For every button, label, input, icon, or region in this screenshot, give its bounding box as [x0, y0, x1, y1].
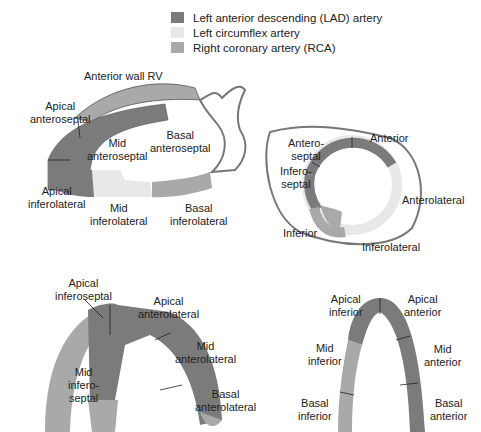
label-apical-anteroseptal: Apical anteroseptal [30, 100, 91, 126]
label-basal-anteroseptal: Basal anteroseptal [150, 129, 211, 155]
label-basal-anterolateral: Basal anterolateral [195, 388, 256, 414]
label-anterior: Anterior [370, 132, 409, 145]
label-basal-inferolateral: Basal inferolateral [170, 202, 227, 228]
label-mid-anterolateral: Mid anterolateral [175, 340, 236, 366]
label-inferoseptal: Infero- septal [280, 165, 312, 191]
label-mid-anterior: Mid anterior [424, 343, 461, 369]
label-apical-anterior: Apical anterior [404, 293, 441, 319]
label-apical-anterolateral: Apical anterolateral [138, 295, 199, 321]
label-basal-anterior: Basal anterior [430, 397, 467, 423]
label-anterolateral: Anterolateral [402, 194, 464, 207]
label-apical-inferior: Apical inferior [329, 293, 363, 319]
label-basal-inferior: Basal inferior [298, 397, 332, 423]
label-inferolateral: Inferolateral [362, 241, 420, 254]
label-mid-inferoseptal: Mid infero- septal [68, 366, 99, 405]
label-anterior-wall-rv: Anterior wall RV [84, 70, 163, 83]
label-mid-inferior: Mid inferior [308, 342, 342, 368]
label-apical-inferoseptal: Apical inferoseptal [55, 277, 112, 303]
label-mid-anteroseptal: Mid anteroseptal [87, 137, 148, 163]
label-anteroseptal: Antero- septal [288, 137, 324, 163]
label-apical-inferolateral: Apical inferolateral [28, 185, 85, 211]
label-mid-inferolateral: Mid inferolateral [90, 202, 147, 228]
label-inferior: Inferior [283, 227, 317, 240]
